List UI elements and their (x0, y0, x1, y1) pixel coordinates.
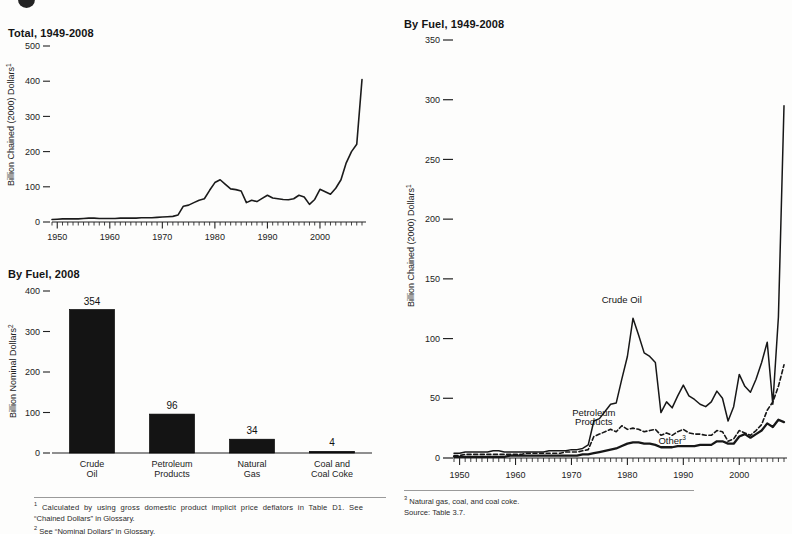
bar-y-tick-label-400: 400 (25, 286, 40, 296)
chart-by-fuel-2008-bar: 0100200300400Billion Nominal Dollars2354… (0, 277, 380, 492)
fuel-y-tick-label-200: 200 (425, 214, 440, 224)
x-tick-label-1990: 1990 (257, 232, 277, 242)
bar-category-label-1-1: Products (154, 469, 190, 479)
footnote-line: 3 Natural gas, coal, and coal coke. (404, 494, 694, 507)
y-tick-label-100: 100 (25, 182, 40, 192)
y-axis-title-superscript: 2 (7, 324, 14, 328)
fuel-x-tick-label-1980: 1980 (617, 470, 637, 480)
footnote-rule-left (34, 497, 386, 498)
bar-category-label-0-1: Oil (87, 469, 98, 479)
bar-category-label-3-0: Coal and (314, 459, 350, 469)
bar-0[interactable] (70, 310, 115, 453)
fuel-y-tick-label-50: 50 (430, 393, 440, 403)
chart-total-svg: 0100200300400500Billion Chained (2000) D… (0, 36, 370, 241)
x-tick-label-1960: 1960 (100, 232, 120, 242)
bar-group-1: 96PetroleumProducts (150, 400, 195, 479)
annotation-superscript: 3 (682, 434, 686, 441)
y-tick-label-0: 0 (35, 217, 40, 227)
y-tick-label-200: 200 (25, 147, 40, 157)
y-axis-title-superscript: 1 (5, 63, 12, 67)
fuel-y-tick-label-350: 350 (425, 35, 440, 45)
fuel-y-tick-label-0: 0 (435, 453, 440, 463)
series-annotation-products: Products (575, 416, 613, 427)
bar-y-tick-label-100: 100 (25, 408, 40, 418)
footnote-text: “Chained Dollars” in Glossary. (34, 514, 135, 523)
bar-group-3: 4Coal andCoal Coke (310, 437, 355, 479)
footnote-text: Natural gas, coal, and coal coke. (407, 497, 519, 506)
x-tick-label-2000: 2000 (310, 232, 330, 242)
bar-category-label-3-1: Coal Coke (311, 469, 353, 479)
series-annotation-other: Other3 (658, 434, 686, 446)
footnote-line: 2 See “Nominal Dollars” in Glossary. (34, 524, 394, 536)
x-tick-label-1950: 1950 (47, 232, 67, 242)
fuel-x-tick-label-2000: 2000 (729, 470, 749, 480)
fuel-x-tick-label-1950: 1950 (450, 470, 470, 480)
fuel-x-tick-label-1990: 1990 (673, 470, 693, 480)
fuel-y-tick-label-250: 250 (425, 155, 440, 165)
footnotes-left: 1 Calculated by using gross domestic pro… (34, 500, 394, 536)
footnote-rule-right (404, 490, 694, 491)
chart-total-line: 0100200300400500Billion Chained (2000) D… (0, 36, 370, 241)
bar-y-tick-label-200: 200 (25, 367, 40, 377)
fuel-x-tick-label-1960: 1960 (506, 470, 526, 480)
bar-value-label-3: 4 (329, 437, 335, 448)
bar-value-label-1: 96 (166, 400, 178, 411)
footnote-line: Source: Table 3.7. (404, 507, 694, 518)
series-line-total (52, 79, 362, 219)
x-tick-label-1980: 1980 (205, 232, 225, 242)
bar-category-label-2-1: Gas (244, 469, 261, 479)
bar-value-label-0: 354 (84, 296, 101, 307)
y-axis-title-bar: Billion Nominal Dollars2 (7, 324, 18, 418)
series-line-crude-oil (454, 106, 784, 454)
y-axis-title-total: Billion Chained (2000) Dollars1 (5, 63, 16, 186)
bar-group-2: 34NaturalGas (230, 425, 275, 479)
footnote-line: “Chained Dollars” in Glossary. (34, 513, 394, 524)
bar-3[interactable] (310, 451, 355, 453)
bar-category-label-0-0: Crude (80, 459, 105, 469)
bar-category-label-1-0: Petroleum (151, 459, 192, 469)
series-annotation-crude-oil: Crude Oil (602, 294, 642, 305)
footnote-text: See “Nominal Dollars” in Glossary. (37, 526, 155, 535)
y-axis-title-superscript: 1 (405, 184, 412, 188)
fuel-y-tick-label-300: 300 (425, 95, 440, 105)
chart-bar-svg: 0100200300400Billion Nominal Dollars2354… (0, 277, 380, 492)
footnote-text: Calculated by using gross domestic produ… (37, 503, 363, 512)
y-tick-label-300: 300 (25, 112, 40, 122)
chart-fuel-svg: 050100150200250300350Billion Chained (20… (398, 28, 790, 490)
bar-category-label-2-0: Natural (237, 459, 266, 469)
bar-y-tick-label-300: 300 (25, 327, 40, 337)
chart-by-fuel-series-line: 050100150200250300350Billion Chained (20… (398, 28, 790, 490)
bar-1[interactable] (150, 414, 195, 453)
y-axis-title-fuel: Billion Chained (2000) Dollars1 (405, 184, 416, 307)
bar-y-tick-label-0: 0 (35, 448, 40, 458)
fuel-x-tick-label-1970: 1970 (561, 470, 581, 480)
bar-group-0: 354CrudeOil (70, 296, 115, 479)
footnotes-right: 3 Natural gas, coal, and coal coke. Sour… (404, 494, 694, 518)
fuel-y-tick-label-100: 100 (425, 334, 440, 344)
footnote-text: Source: Table 3.7. (404, 508, 465, 517)
fuel-y-tick-label-150: 150 (425, 274, 440, 284)
figure-bullet-mark (18, 0, 35, 8)
x-tick-label-1970: 1970 (152, 232, 172, 242)
bar-value-label-2: 34 (246, 425, 258, 436)
y-tick-label-500: 500 (25, 41, 40, 51)
footnote-line: 1 Calculated by using gross domestic pro… (34, 500, 394, 513)
bar-2[interactable] (230, 439, 275, 453)
y-tick-label-400: 400 (25, 76, 40, 86)
